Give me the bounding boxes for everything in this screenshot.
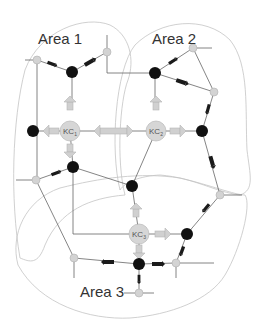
- network-edges: [16, 35, 242, 293]
- agent-node: [133, 258, 145, 270]
- area1-label: Area 1: [38, 30, 82, 47]
- agent-node: [181, 228, 193, 240]
- area2-boundary: [115, 24, 250, 195]
- agent-node: [66, 66, 78, 78]
- agent-nodes: [27, 66, 208, 270]
- area3-label: Area 3: [80, 283, 124, 300]
- diagram-canvas: KC1 KC2 KC3 Area 1 Area 2 Area 3: [0, 0, 273, 329]
- agent-node: [67, 161, 79, 173]
- kc1-node: KC1: [60, 121, 80, 141]
- bus-nodes: [32, 44, 224, 297]
- bus-node: [70, 254, 78, 262]
- bus-node: [216, 191, 224, 199]
- kc1-kc2-double-arrow: [94, 125, 133, 137]
- bus-node: [135, 289, 143, 297]
- bus-node: [32, 176, 40, 184]
- bus-node: [103, 48, 111, 56]
- bus-node: [33, 56, 41, 64]
- area1-boundary: [14, 22, 131, 261]
- agent-node: [149, 67, 161, 79]
- area3-boundary: [16, 176, 247, 319]
- agent-node: [27, 125, 39, 137]
- kc2-node: KC2: [146, 121, 166, 141]
- agent-node: [126, 180, 138, 192]
- area-boundaries: [14, 22, 251, 318]
- bus-node: [210, 88, 218, 96]
- area2-label: Area 2: [152, 30, 196, 47]
- kc3-node: KC3: [129, 224, 149, 244]
- bus-node: [172, 259, 180, 267]
- agent-node: [196, 125, 208, 137]
